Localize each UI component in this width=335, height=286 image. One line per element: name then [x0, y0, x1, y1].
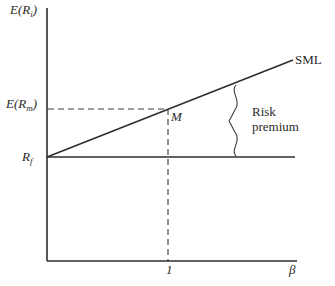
x-axis-label: β — [289, 263, 295, 277]
market-return-tick-label: E(Rm) — [6, 97, 37, 115]
market-portfolio-point-label: M — [171, 110, 182, 124]
market-return-close: ) — [33, 96, 37, 111]
risk-premium-annotation: Risk premium — [252, 104, 299, 134]
y-axis-label-close: ) — [33, 2, 37, 17]
market-return-main: E(R — [6, 96, 26, 111]
risk-premium-brace-icon — [229, 85, 237, 156]
y-axis-label-main: E(R — [10, 2, 30, 17]
risk-free-subscript: f — [30, 156, 33, 166]
risk-free-main: R — [22, 149, 30, 164]
market-beta-tick-label: 1 — [166, 263, 173, 277]
risk-premium-line1: Risk — [252, 104, 299, 119]
risk-free-tick-label: Rf — [22, 150, 32, 168]
risk-premium-line2: premium — [252, 119, 299, 134]
y-axis-label: E(Ri) — [10, 3, 37, 21]
sml-line-label: SML — [295, 53, 322, 67]
sml-diagram — [0, 0, 335, 286]
